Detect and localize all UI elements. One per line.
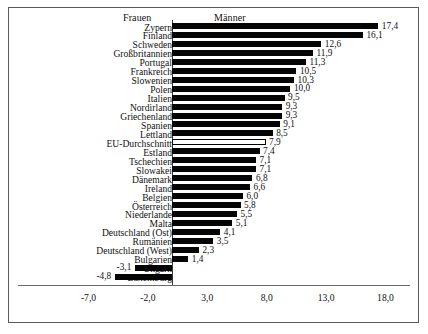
bar xyxy=(172,23,379,29)
bar-value-label: 1,4 xyxy=(192,255,204,264)
bar xyxy=(172,148,260,154)
bar xyxy=(172,95,285,101)
bar xyxy=(172,175,253,181)
bar-value-label: 16,1 xyxy=(366,31,382,40)
bar-value-label: 2,3 xyxy=(202,246,214,255)
x-tick-label: -7,0 xyxy=(81,293,96,303)
bar xyxy=(172,130,273,136)
x-axis-line xyxy=(18,285,410,286)
bar-value-label: 5,1 xyxy=(236,219,248,228)
bar xyxy=(135,265,172,271)
bar xyxy=(172,32,363,38)
bar xyxy=(172,86,291,92)
bar xyxy=(115,274,172,280)
bar xyxy=(172,256,189,262)
bar xyxy=(172,229,221,235)
bar xyxy=(172,77,294,83)
bar-value-label: 3,5 xyxy=(217,237,229,246)
bar xyxy=(172,211,237,217)
bar xyxy=(172,68,297,74)
x-tick-label: 3,0 xyxy=(201,293,213,303)
bars-layer: 17,416,112,611,911,310,510,310,09,59,39,… xyxy=(0,23,428,281)
bar-value-label: -3,1 xyxy=(117,263,132,272)
bar xyxy=(172,139,266,145)
bar xyxy=(172,238,214,244)
bar xyxy=(172,59,306,65)
bar xyxy=(172,157,256,163)
bar xyxy=(172,41,322,47)
bar xyxy=(172,193,243,199)
bar xyxy=(172,202,241,208)
bar-value-label: -4,8 xyxy=(96,272,111,281)
plot-area: ZypernFinlandSchwedenGroßbritannienPortu… xyxy=(0,0,428,334)
bar xyxy=(172,247,199,253)
x-tick-label: 13,0 xyxy=(318,293,335,303)
x-tick-label: -2,0 xyxy=(140,293,155,303)
bar xyxy=(172,113,282,119)
bar xyxy=(172,220,233,226)
x-tick-label: 18,0 xyxy=(377,293,394,303)
bar xyxy=(172,50,313,56)
bar xyxy=(172,166,256,172)
bar xyxy=(172,184,250,190)
bar xyxy=(172,121,280,127)
chart-figure: Frauen Männer ZypernFinlandSchwedenGroßb… xyxy=(0,0,428,334)
bar-value-label: 17,4 xyxy=(382,22,398,31)
bar xyxy=(172,104,282,110)
x-tick-label: 8,0 xyxy=(261,293,273,303)
